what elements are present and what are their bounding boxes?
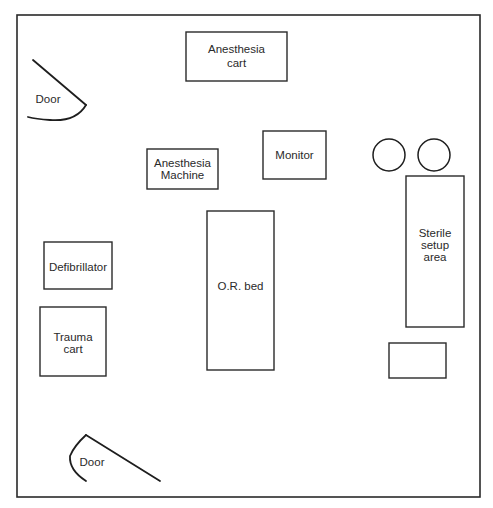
sterile-setup-label-1: Sterile (419, 227, 452, 239)
door-bottom-label: Door (80, 456, 105, 468)
trauma-cart-label-1: Trauma (53, 331, 93, 343)
anesthesia-cart-label-1: Anesthesia (208, 43, 266, 55)
trauma-cart: Trauma cart (40, 307, 106, 376)
monitor: Monitor (263, 131, 326, 179)
anesthesia-cart: Anesthesia cart (186, 32, 287, 81)
defibrillator: Defibrillator (44, 242, 112, 289)
door-top-swing-arc (28, 105, 86, 120)
circle-left (373, 139, 405, 171)
door-bottom: Door (70, 435, 160, 481)
door-top-label: Door (36, 93, 61, 105)
or-bed-label: O.R. bed (217, 280, 263, 292)
defibrillator-label: Defibrillator (49, 261, 107, 273)
small-table (389, 343, 446, 378)
or-bed: O.R. bed (207, 211, 274, 370)
circle-right (418, 139, 450, 171)
trauma-cart-label-2: cart (63, 343, 83, 355)
or-layout-diagram: Anesthesia cart Door Anesthesia Machine … (0, 0, 493, 508)
monitor-label: Monitor (275, 149, 314, 161)
door-top: Door (28, 60, 86, 120)
anesthesia-machine: Anesthesia Machine (147, 149, 218, 189)
anesthesia-machine-label-1: Anesthesia (154, 157, 212, 169)
sterile-setup-area: Sterile setup area (406, 176, 464, 327)
anesthesia-cart-label-2: cart (227, 57, 247, 69)
sterile-setup-label-2: setup (421, 239, 449, 251)
anesthesia-machine-label-2: Machine (161, 169, 204, 181)
sterile-setup-label-3: area (423, 251, 447, 263)
